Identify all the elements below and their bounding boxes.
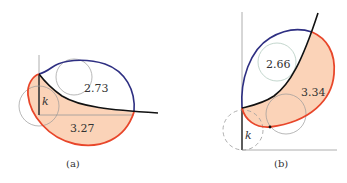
panel-b-caption: (b) [274,158,288,169]
panel-a-upper-label: 2.73 [84,82,109,95]
panel-b-contact-point [269,126,272,129]
panel-b-lower-label: 3.34 [301,86,326,99]
panel-a-k-label: k [42,95,49,108]
figure-canvas: 2.73 k 3.27 (a) 2.66 3.34 k (b) [0,0,347,183]
panel-a-lower-label: 3.27 [70,122,95,135]
panel-a-caption: (a) [66,158,80,169]
panel-b-upper-label: 2.66 [266,58,291,71]
panel-b-k-label: k [245,129,252,142]
panel-a: 2.73 k 3.27 (a) [19,55,158,169]
panel-b: 2.66 3.34 k (b) [223,12,337,169]
